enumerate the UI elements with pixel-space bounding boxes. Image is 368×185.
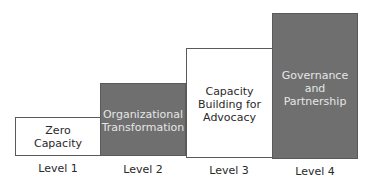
step-level-2-text: Organizational Transformation bbox=[102, 108, 185, 155]
level-3-label: Level 3 bbox=[186, 164, 272, 177]
step-level-4-text: Governance and Partnership bbox=[282, 69, 348, 158]
level-2-label: Level 2 bbox=[100, 163, 186, 176]
step-level-1: Zero Capacity bbox=[15, 117, 101, 156]
level-1-label: Level 1 bbox=[15, 162, 101, 175]
step-level-1-text: Zero Capacity bbox=[34, 124, 82, 150]
step-level-3: Capacity Building for Advocacy bbox=[186, 48, 273, 158]
step-level-4: Governance and Partnership bbox=[272, 13, 358, 159]
step-level-2: Organizational Transformation bbox=[100, 83, 186, 156]
step-level-3-text: Capacity Building for Advocacy bbox=[198, 85, 261, 157]
level-4-label: Level 4 bbox=[272, 165, 358, 178]
